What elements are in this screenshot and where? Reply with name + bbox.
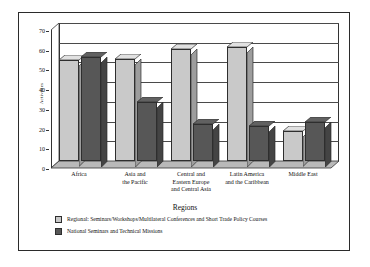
chart-frame: Activities 706050403020100 AfricaAsia an… (18, 12, 350, 251)
y-tick-mark (46, 90, 49, 91)
bar (249, 126, 269, 161)
x-category-label: Middle East (269, 171, 337, 179)
bar-top-face (137, 97, 157, 102)
legend-item: Regional: Seminars/Workshops/Multilatera… (55, 216, 351, 223)
bar-top-face (249, 121, 269, 126)
bar-front-face (137, 102, 157, 161)
bar-front-face (249, 126, 269, 161)
legend-swatch (55, 228, 62, 235)
bar-side-face (101, 57, 107, 161)
bar-top-face (59, 55, 79, 60)
bar-top-face (115, 54, 135, 59)
bar-side-face (269, 126, 275, 161)
y-tick-label: 60 (29, 48, 45, 54)
bar (171, 49, 191, 161)
bar (137, 102, 157, 161)
bar-front-face (171, 49, 191, 161)
y-tick-label: 50 (29, 67, 45, 73)
x-axis-title: Regions (19, 203, 351, 212)
y-tick-mark (46, 130, 49, 131)
bar-top-face (193, 119, 213, 124)
y-tick-mark (46, 110, 49, 111)
bar-side-face (157, 102, 163, 161)
y-tick-label: 10 (29, 146, 45, 152)
y-tick-label: 70 (29, 28, 45, 34)
legend-label: Regional: Seminars/Workshops/Multilatera… (67, 216, 267, 223)
bar-series-container (51, 23, 339, 168)
y-tick-label: 0 (29, 166, 45, 172)
y-tick-label: 30 (29, 107, 45, 113)
y-tick-mark (46, 31, 49, 32)
y-tick-mark (46, 149, 49, 150)
bar-front-face (283, 131, 303, 161)
chart-canvas: Activities 706050403020100 AfricaAsia an… (19, 13, 351, 252)
bar-side-face (325, 122, 331, 161)
bar (115, 59, 135, 162)
y-tick-mark (46, 70, 49, 71)
x-axis-category-labels: AfricaAsia andthe PacificCentral andEast… (51, 171, 339, 203)
bar-top-face (81, 52, 101, 57)
y-tick-label: 20 (29, 127, 45, 133)
bar-side-face (213, 124, 219, 161)
bar (81, 57, 101, 161)
y-tick-mark (46, 51, 49, 52)
legend-swatch (55, 216, 62, 223)
bar-front-face (115, 59, 135, 162)
bar-front-face (305, 122, 325, 161)
bar-top-face (227, 42, 247, 47)
chart-legend: Regional: Seminars/Workshops/Multilatera… (55, 216, 351, 240)
y-tick-mark (46, 169, 49, 170)
bar-top-face (171, 44, 191, 49)
bar-front-face (81, 57, 101, 161)
legend-label: National Seminars and Technical Missions (67, 228, 163, 235)
bar-front-face (193, 124, 213, 161)
bar-top-face (305, 117, 325, 122)
bar-top-face (283, 126, 303, 131)
bar (283, 131, 303, 161)
bar (59, 60, 79, 161)
bar (227, 47, 247, 161)
bar-front-face (59, 60, 79, 161)
bar-front-face (227, 47, 247, 161)
bar (305, 122, 325, 161)
bar (193, 124, 213, 161)
legend-item: National Seminars and Technical Missions (55, 228, 351, 235)
y-tick-label: 40 (29, 87, 45, 93)
